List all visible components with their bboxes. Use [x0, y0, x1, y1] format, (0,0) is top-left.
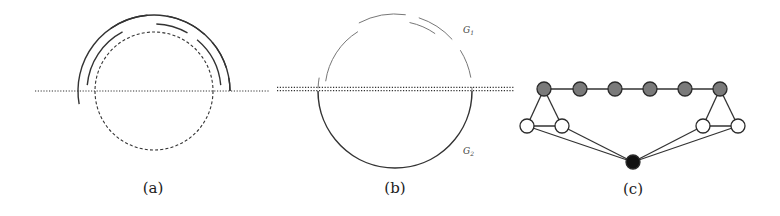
circle-arc — [419, 18, 452, 40]
gray-node — [608, 82, 622, 96]
solid-arc — [197, 40, 221, 85]
circle-arc — [410, 23, 436, 34]
circle-arc — [318, 91, 472, 168]
subscript: 2 — [469, 150, 474, 157]
caption-a: (a) — [143, 179, 164, 197]
solid-arc — [78, 15, 230, 104]
white-node — [555, 119, 569, 133]
graph-edge — [562, 126, 633, 162]
panel-b: G1G2 — [277, 14, 515, 168]
circle-arc — [326, 32, 358, 82]
gray-node — [537, 82, 551, 96]
subscript: 1 — [470, 29, 474, 36]
gray-node — [678, 82, 692, 96]
graph-edge — [527, 126, 633, 162]
graph-label-g1: G1 — [463, 25, 474, 36]
gray-node — [573, 82, 587, 96]
solid-arc — [110, 15, 147, 28]
gray-node — [643, 82, 657, 96]
panel-a — [35, 15, 270, 150]
panel-c — [520, 82, 745, 169]
figure-canvas: G1G2 (a) (b) (c) — [0, 0, 780, 216]
graph-label-g2: G2 — [463, 146, 474, 157]
circle-arc — [359, 14, 406, 23]
circle-arc — [460, 50, 471, 77]
graph-edge — [633, 126, 703, 162]
solid-arc — [156, 24, 187, 33]
caption-c: (c) — [623, 180, 643, 198]
graph-edge — [633, 126, 738, 162]
black-node — [626, 155, 640, 169]
circle-arc — [318, 78, 319, 89]
white-node — [731, 119, 745, 133]
solid-arc — [229, 78, 230, 91]
white-node — [520, 119, 534, 133]
white-node — [696, 119, 710, 133]
gray-node — [713, 82, 727, 96]
caption-b: (b) — [384, 179, 405, 197]
